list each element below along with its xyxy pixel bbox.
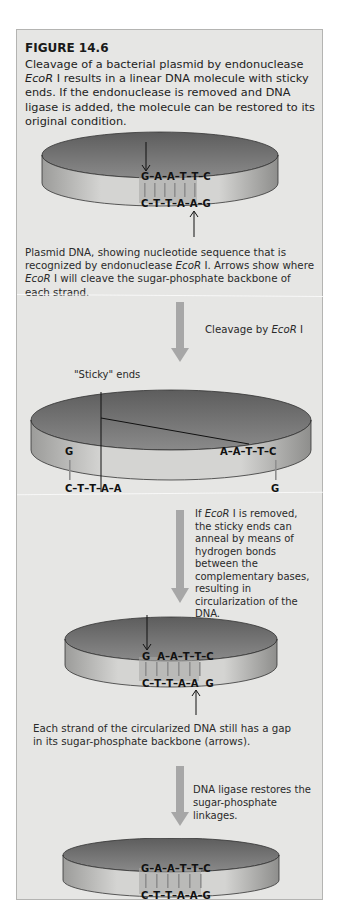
figure-panel: FIGURE 14.6 Cleavage of a bacterial plas… (16, 29, 323, 900)
ligase-label: DNA ligase restores the sugar-phosphate … (193, 784, 311, 822)
cleaved-plasmid-ring: G C–T–T–A–A A–A–T–T–C G (17, 380, 324, 500)
top-strand-sequence: G A–A–T–T–C (142, 651, 214, 662)
bottom-strand-sequence: C–T–T–A–A–G (141, 198, 211, 209)
restored-plasmid-ring: G–A–A–T–T–C C–T–T–A–A–G (17, 838, 324, 903)
label-text: I is removed, the sticky ends can anneal… (195, 508, 309, 619)
desc-text: I. Arrows show where (201, 259, 314, 271)
left-bottom-strand: C–T–T–A–A (65, 483, 122, 494)
label-text: If (195, 508, 205, 519)
label-enzyme: EcoR (271, 324, 296, 335)
top-strand-sequence: G–A–A–T–T–C (141, 171, 211, 182)
caption-enzyme: EcoR (25, 72, 53, 85)
desc-enzyme: EcoR (176, 259, 202, 271)
label-text: Cleavage by (205, 324, 271, 335)
bottom-strand-sequence: C–T–T–A–A G (142, 678, 214, 689)
caption-text: Cleavage of a bacterial plasmid by endon… (25, 58, 303, 71)
step1-description: Plasmid DNA, showing nucleotide sequence… (25, 246, 317, 299)
step3-description: Each strand of the circularized DNA stil… (33, 722, 303, 748)
process-arrow-icon (171, 302, 189, 364)
label-enzyme: EcoR (205, 508, 230, 519)
gap-arrow-bottom-icon (192, 690, 200, 715)
caption-text: I results in a linear DNA molecule with … (25, 72, 315, 128)
process-arrow-icon (171, 510, 189, 605)
left-top-base: G (65, 446, 73, 457)
process-arrow-icon (171, 766, 189, 828)
top-strand-sequence: G–A–A–T–T–C (141, 863, 211, 874)
label-text: I (297, 324, 303, 335)
desc-enzyme: EcoR (25, 272, 51, 284)
cleavage-label: Cleavage by EcoR I (205, 324, 303, 337)
cut-arrow-bottom-icon (190, 211, 198, 237)
figure-title: FIGURE 14.6 (25, 41, 108, 55)
figure-caption: Cleavage of a bacterial plasmid by endon… (25, 58, 315, 129)
bottom-strand-sequence: C–T–T–A–A–G (141, 890, 211, 901)
annealed-plasmid-ring: G A–A–T–T–C C–T–T–A–A G (17, 615, 324, 720)
right-top-strand: A–A–T–T–C (220, 446, 276, 457)
annealing-label: If EcoR I is removed, the sticky ends ca… (195, 508, 315, 621)
